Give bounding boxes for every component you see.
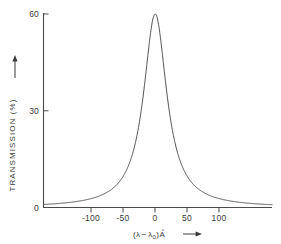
x-ticklabel-neg100: -100: [82, 213, 100, 223]
y-axis-label: TRANSMISSION (%): [8, 98, 17, 191]
x-ticklabel-50: 50: [182, 213, 192, 223]
x-label-minus: −: [142, 230, 147, 239]
x-tick-marks: [91, 208, 219, 213]
x-ticklabel-100: 100: [212, 213, 227, 223]
transmission-spectrum-figure: TRANSMISSION (%) 60 30 0 -100 -50 0 50 1…: [0, 0, 281, 244]
y-ticklabel-60: 60: [29, 9, 39, 19]
y-axis-arrow-head: [12, 55, 17, 61]
x-label-lambda: λ: [136, 230, 140, 239]
x-label-angstrom: A: [159, 230, 165, 239]
x-axis-label-group: (λ−λ0)°A: [133, 228, 202, 240]
y-tick-marks: [44, 14, 49, 111]
transmission-curve: [44, 14, 273, 205]
y-ticklabel-30: 30: [29, 106, 39, 116]
x-axis-label: (λ−λ0)°A: [133, 228, 165, 240]
chart-canvas: TRANSMISSION (%) 60 30 0 -100 -50 0 50 1…: [0, 0, 281, 244]
x-axis-arrow-head: [196, 231, 202, 236]
y-axis-label-group: TRANSMISSION (%): [8, 55, 18, 192]
x-ticklabel-neg50: -50: [117, 213, 130, 223]
y-ticklabel-0: 0: [34, 203, 39, 213]
x-ticklabel-0: 0: [153, 213, 158, 223]
